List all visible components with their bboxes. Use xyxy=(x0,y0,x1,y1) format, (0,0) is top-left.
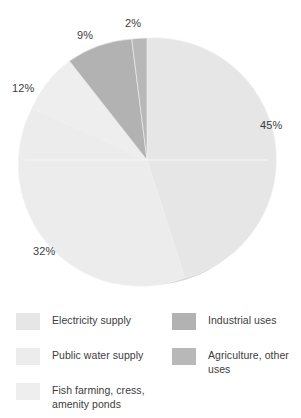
legend-swatch-electricity-supply xyxy=(16,313,40,330)
legend-item-electricity-supply: Electricity supply xyxy=(16,312,166,336)
legend-column-left: Electricity supply Public water supply F… xyxy=(16,312,166,418)
chart-legend: Electricity supply Public water supply F… xyxy=(0,312,301,418)
legend-swatch-public-water-supply xyxy=(16,348,40,365)
legend-label-line-2: amenity ponds xyxy=(52,398,121,410)
legend-label-line-1: Fish farming, cress, xyxy=(52,384,145,396)
legend-label-electricity-supply: Electricity supply xyxy=(52,312,131,327)
legend-label-line-2: uses xyxy=(208,363,230,375)
pie-label-32-percent: 32% xyxy=(33,245,55,257)
pie-label-45-percent: 45% xyxy=(260,119,282,131)
legend-label-industrial-uses: Industrial uses xyxy=(208,312,276,327)
pie-label-12-percent: 12% xyxy=(12,82,34,94)
legend-label-line-1: Agriculture, other xyxy=(208,349,289,361)
legend-label-public-water-supply: Public water supply xyxy=(52,347,143,362)
legend-item-fish-farming-cress-amenity-ponds: Fish farming, cress, amenity ponds xyxy=(16,382,166,411)
legend-swatch-agriculture-other-uses xyxy=(172,348,196,365)
legend-swatch-industrial-uses xyxy=(172,313,196,330)
legend-label-fish-farming-cress-amenity-ponds: Fish farming, cress, amenity ponds xyxy=(52,382,145,411)
pie-chart-page: 2% 9% 12% 45% 32% Electricity supply Pub… xyxy=(0,0,301,418)
legend-column-right: Industrial uses Agriculture, other uses xyxy=(172,312,301,387)
pie-label-9-percent: 9% xyxy=(77,29,93,41)
legend-swatch-fish-farming-cress-amenity-ponds xyxy=(16,383,40,400)
legend-item-public-water-supply: Public water supply xyxy=(16,347,166,371)
pie-label-2-percent: 2% xyxy=(125,17,141,29)
legend-label-agriculture-other-uses: Agriculture, other uses xyxy=(208,347,289,376)
legend-item-industrial-uses: Industrial uses xyxy=(172,312,301,336)
legend-item-agriculture-other-uses: Agriculture, other uses xyxy=(172,347,301,376)
chart-area: 2% 9% 12% 45% 32% xyxy=(0,0,301,300)
